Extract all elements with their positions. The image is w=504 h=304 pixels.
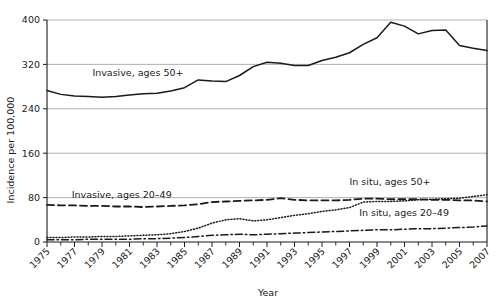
y-tick-label: 320 xyxy=(22,59,40,70)
series-line-4 xyxy=(47,226,487,240)
x-axis-ticks xyxy=(47,242,487,247)
series-label-3: In situ, ages 50+ xyxy=(350,176,431,187)
y-tick-label: 160 xyxy=(22,148,40,159)
series-label-2: Invasive, ages 20–49 xyxy=(72,189,172,200)
series-annotations: Invasive, ages 50+Invasive, ages 20–49In… xyxy=(72,67,449,218)
y-tick-label: 80 xyxy=(28,192,40,203)
x-tick-label: 1981 xyxy=(110,246,135,271)
x-axis-tick-labels: 1975197719791981198319851987198919911993… xyxy=(27,246,492,271)
series-label-4: In situ, ages 20–49 xyxy=(359,207,449,218)
y-axis-title: Incidence per 100,000 xyxy=(5,97,16,204)
x-tick-label: 1989 xyxy=(220,246,245,271)
x-tick-label: 1987 xyxy=(192,246,217,271)
x-tick-label: 2005 xyxy=(440,246,465,271)
x-tick-label: 1993 xyxy=(275,246,300,271)
chart-container: 080160240320400 197519771979198119831985… xyxy=(0,0,504,304)
incidence-line-chart: 080160240320400 197519771979198119831985… xyxy=(0,0,504,304)
x-tick-label: 2003 xyxy=(412,246,437,271)
series-label-1: Invasive, ages 50+ xyxy=(92,67,183,78)
x-axis-title: Year xyxy=(257,287,278,298)
x-tick-label: 1975 xyxy=(27,246,52,271)
y-tick-label: 400 xyxy=(22,14,40,25)
y-axis-ticks xyxy=(43,20,47,242)
y-tick-label: 0 xyxy=(34,236,40,247)
series-line-1 xyxy=(47,22,487,97)
x-tick-label: 2001 xyxy=(385,246,410,271)
x-tick-label: 1997 xyxy=(330,246,355,271)
x-tick-label: 1979 xyxy=(82,246,107,271)
x-tick-label: 1995 xyxy=(302,246,327,271)
x-tick-label: 1977 xyxy=(55,246,80,271)
y-tick-label: 240 xyxy=(22,103,40,114)
x-tick-label: 1985 xyxy=(165,246,190,271)
x-tick-label: 1991 xyxy=(247,246,272,271)
x-tick-label: 1983 xyxy=(137,246,162,271)
x-tick-label: 2007 xyxy=(467,246,492,271)
y-axis-tick-labels: 080160240320400 xyxy=(22,14,40,247)
x-tick-label: 1999 xyxy=(357,246,382,271)
